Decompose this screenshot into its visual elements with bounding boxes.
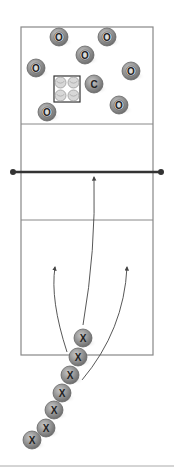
opponent-token: O [38,103,61,122]
token-label: X [59,388,66,399]
token-label: X [43,423,50,434]
token-label: O [127,66,135,77]
token-label: O [32,63,40,74]
token-label: O [43,107,51,118]
token-label: O [81,50,89,61]
net-post-right [158,169,164,175]
volleyball-icon [55,90,66,101]
arrow-left-approach [54,267,67,352]
opponent-token: O [110,96,133,115]
token-label: C [90,79,97,90]
token-label: X [29,435,36,446]
token-label: O [103,32,111,43]
opponent-token: O [76,46,99,65]
coach-token: C [85,75,108,94]
token-label: O [55,32,63,43]
opponent-token: O [98,28,121,47]
player-token: X [37,419,60,438]
token-label: X [80,333,87,344]
player-token: X [69,348,92,367]
ball-cart-icon [54,76,80,102]
player-token: X [74,329,97,348]
player-token: X [45,401,68,420]
player-token: X [53,384,76,403]
opponent-token: O [50,28,73,47]
opponent-token: O [122,62,145,81]
volleyball-icon [55,77,66,88]
token-label: X [51,405,58,416]
drill-diagram: OOOOOCOOXXXXXXX [0,0,174,473]
arrow-center-approach [83,177,94,325]
token-label: X [75,352,82,363]
token-label: O [115,100,123,111]
net-post-left [10,169,16,175]
volleyball-icon [68,77,79,88]
player-token: X [61,366,84,385]
opponent-token: O [27,59,50,78]
token-label: X [67,370,74,381]
volleyball-icon [68,90,79,101]
